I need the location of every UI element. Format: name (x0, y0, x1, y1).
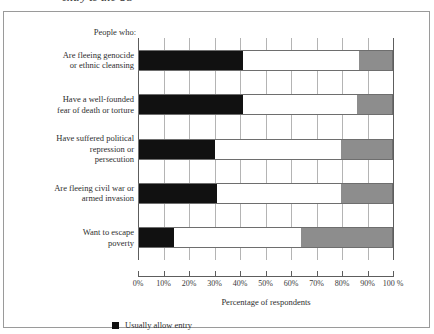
x-axis-tick (215, 271, 216, 277)
category-axis-header: People who: (56, 27, 136, 37)
category-label-line: Have suffered political (6, 133, 134, 144)
x-axis-tick (393, 271, 394, 277)
bar-row (138, 183, 393, 204)
bar-segment (217, 184, 341, 203)
legend-swatch-icon (112, 322, 119, 329)
x-axis-tick (164, 271, 165, 277)
figure-frame: People who: Are fleeing genocideor ethni… (3, 11, 430, 328)
category-label-line: Are fleeing genocide (6, 50, 134, 61)
bar-segment (139, 140, 215, 159)
bar-row (138, 227, 393, 248)
x-axis-tick-label: 50% (258, 279, 273, 288)
bars-area (138, 38, 393, 260)
category-label-line: Want to escape (6, 227, 134, 238)
x-axis-tick (342, 271, 343, 277)
category-label-line: repression or (6, 144, 134, 155)
bar-segment (341, 184, 392, 203)
x-axis-tick (291, 271, 292, 277)
category-label: Are fleeing civil war orarmed invasion (6, 183, 134, 204)
bar-segment (139, 95, 243, 114)
bar-segment (301, 228, 392, 247)
bar-segment (139, 51, 243, 70)
legend-item-label: Usually allow entry (125, 320, 192, 330)
bar-segment (174, 228, 301, 247)
bar-segment (243, 95, 357, 114)
category-label-line: persecution (6, 154, 134, 165)
category-label-line: Are fleeing civil war or (6, 183, 134, 194)
x-axis-tick (240, 271, 241, 277)
x-axis-tick (138, 271, 139, 277)
bar-segment (139, 184, 217, 203)
clipped-caption-strip: entry to the US (0, 0, 434, 9)
clipped-caption-text: entry to the US (62, 0, 133, 3)
category-label-line: or ethnic cleansing (6, 60, 134, 71)
x-axis-tick-label: 60% (284, 279, 299, 288)
bar-segment (359, 51, 392, 70)
x-axis-tick (368, 271, 369, 277)
category-label: Are fleeing genocideor ethnic cleansing (6, 50, 134, 71)
x-axis-tick-label: 30% (207, 279, 222, 288)
category-label-line: poverty (6, 238, 134, 249)
chart-legend: Usually allow entry (112, 320, 192, 330)
x-axis-tick-label: 10% (156, 279, 171, 288)
category-label: Want to escapepoverty (6, 227, 134, 248)
bar-segment (139, 228, 174, 247)
x-axis-tick-label: 20% (182, 279, 197, 288)
category-label-line: fear of death or torture (6, 105, 134, 116)
chart-plot-area: People who: Are fleeing genocideor ethni… (4, 12, 429, 327)
x-axis-tick-label: 70% (309, 279, 324, 288)
bar-row (138, 94, 393, 115)
bar-segment (357, 95, 392, 114)
category-label: Have suffered politicalrepression orpers… (6, 133, 134, 165)
x-axis-tick (189, 271, 190, 277)
x-axis-tick-label: 80% (335, 279, 350, 288)
x-axis-tick-label: 100 % (383, 279, 404, 288)
category-label: Have a well-foundedfear of death or tort… (6, 94, 134, 115)
x-axis-tick-label: 90% (360, 279, 375, 288)
category-label-line: Have a well-founded (6, 94, 134, 105)
x-axis-title: Percentage of respondents (138, 297, 394, 307)
x-axis-tick-label: 40% (233, 279, 248, 288)
bar-segment (215, 140, 342, 159)
category-label-list: Are fleeing genocideor ethnic cleansingH… (4, 38, 134, 260)
x-axis-tick-label: 0% (133, 279, 144, 288)
bar-segment (243, 51, 359, 70)
category-label-line: armed invasion (6, 193, 134, 204)
bar-row (138, 139, 393, 160)
gridline-100 (393, 38, 394, 260)
bar-segment (341, 140, 392, 159)
x-axis-tick (317, 271, 318, 277)
x-axis-tick (266, 271, 267, 277)
bar-row (138, 50, 393, 71)
